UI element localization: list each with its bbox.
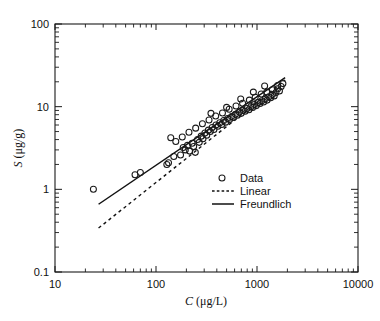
legend-label-freundlich: Freundlich xyxy=(240,198,291,210)
data-point xyxy=(164,161,170,167)
y-axis-title: S (μg/g) xyxy=(11,129,25,168)
y-tick-label: 10 xyxy=(37,101,49,113)
data-point xyxy=(137,169,143,175)
y-tick-label: 100 xyxy=(31,18,49,30)
data-point xyxy=(90,186,96,192)
legend-marker-icon xyxy=(219,175,225,181)
x-axis-units: (μg/L) xyxy=(196,294,227,308)
legend-label-data: Data xyxy=(240,172,264,184)
x-axis-tick-labels: 10100100010000 xyxy=(49,278,373,290)
figure-container: 10100100010000 0.1110100 C (μg/L) S (μg/… xyxy=(0,0,380,321)
x-tick-label: 1000 xyxy=(245,278,269,290)
y-tick-label: 1 xyxy=(43,183,49,195)
y-axis-major-ticks xyxy=(55,24,358,272)
data-point xyxy=(179,134,185,140)
data-point xyxy=(219,110,225,116)
data-point xyxy=(250,89,256,95)
sorption-isotherm-chart: 10100100010000 0.1110100 C (μg/L) S (μg/… xyxy=(0,0,380,321)
plot-frame xyxy=(55,24,358,272)
data-point xyxy=(186,129,192,135)
data-point xyxy=(199,121,205,127)
x-axis-minor-ticks xyxy=(85,24,353,272)
x-axis-major-ticks xyxy=(55,24,358,272)
x-tick-label: 10 xyxy=(49,278,61,290)
x-tick-label: 10000 xyxy=(343,278,374,290)
chart-legend: DataLinearFreundlich xyxy=(212,172,291,210)
y-axis-tick-labels: 0.1110100 xyxy=(31,18,49,278)
data-point xyxy=(173,138,179,144)
x-axis-title: C (μg/L) xyxy=(185,294,227,308)
data-point xyxy=(171,153,177,159)
data-point xyxy=(262,83,268,89)
data-point xyxy=(206,117,212,123)
data-point xyxy=(178,152,184,158)
y-tick-label: 0.1 xyxy=(34,266,49,278)
data-point xyxy=(193,125,199,131)
data-point xyxy=(233,103,239,109)
data-point xyxy=(166,160,172,166)
y-axis-minor-ticks xyxy=(55,28,358,247)
data-point xyxy=(208,110,214,116)
legend-label-linear: Linear xyxy=(240,185,271,197)
x-tick-label: 100 xyxy=(147,278,165,290)
data-point xyxy=(192,149,198,155)
y-axis-units: (μg/g) xyxy=(11,129,25,159)
